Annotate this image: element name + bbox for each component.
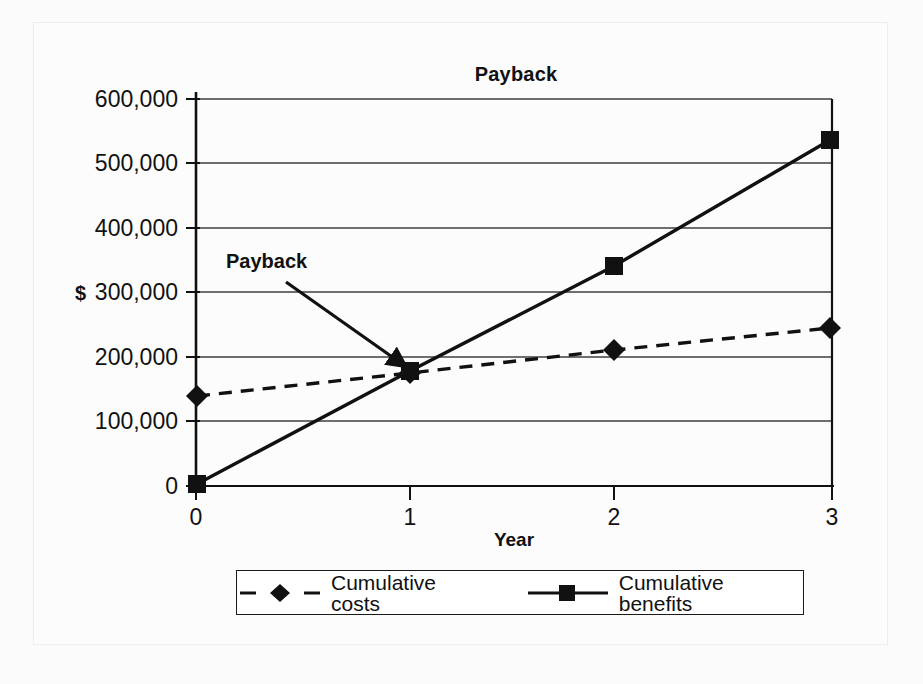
payback-annotation-label: Payback bbox=[226, 251, 307, 271]
x-tick-label-2: 2 bbox=[608, 506, 621, 529]
marker-costs-year-0 bbox=[186, 385, 208, 407]
y-tick-label-200000: 200,000 bbox=[40, 346, 178, 369]
legend-label-cumulative-benefits: Cumulative benefits bbox=[619, 572, 803, 614]
chart-title: Payback bbox=[475, 64, 558, 84]
x-tick-label-1: 1 bbox=[404, 506, 417, 529]
x-axis-title: Year bbox=[494, 530, 534, 549]
y-tick-label-400000: 400,000 bbox=[40, 217, 178, 240]
y-tick-label-300000: 300,000 bbox=[40, 281, 178, 304]
marker-benefits-year-3 bbox=[821, 131, 839, 149]
y-tick-label-100000: 100,000 bbox=[40, 410, 178, 433]
marker-costs-year-2 bbox=[603, 339, 625, 361]
legend-label-cumulative-costs: Cumulative costs bbox=[331, 572, 491, 614]
legend-marker-diamond-dashed bbox=[237, 583, 323, 603]
figure-background: Payback $ Year Payback 600,000 500,000 4… bbox=[0, 0, 923, 684]
series-line-cumulative-costs bbox=[197, 328, 830, 396]
y-tick-label-600000: 600,000 bbox=[40, 88, 178, 111]
y-tick-marks bbox=[186, 99, 200, 486]
y-tick-label-0: 0 bbox=[40, 475, 178, 498]
x-tick-label-3: 3 bbox=[826, 506, 839, 529]
marker-costs-year-3 bbox=[819, 317, 841, 339]
marker-benefits-year-2 bbox=[605, 257, 623, 275]
x-tick-label-0: 0 bbox=[190, 506, 203, 529]
payback-annotation-arrow bbox=[286, 282, 405, 366]
y-tick-label-500000: 500,000 bbox=[40, 152, 178, 175]
chart-legend: Cumulative costs Cumulative benefits bbox=[236, 570, 804, 615]
x-tick-marks bbox=[196, 486, 832, 500]
legend-entry-cumulative-benefits: Cumulative benefits bbox=[525, 572, 803, 614]
series-line-cumulative-benefits bbox=[197, 140, 830, 484]
legend-marker-square-solid bbox=[525, 583, 611, 603]
legend-entry-cumulative-costs: Cumulative costs bbox=[237, 572, 491, 614]
marker-benefits-year-0 bbox=[188, 475, 206, 493]
